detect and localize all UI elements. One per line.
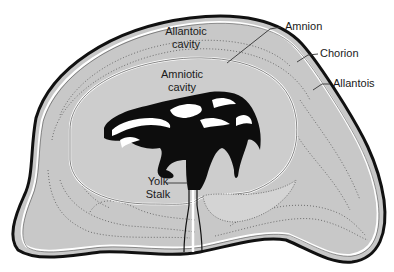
yolk-stalk-label-line2: Stalk: [141, 188, 175, 201]
allantois-label: Allantois: [333, 77, 375, 90]
chorion-label: Chorion: [320, 47, 359, 60]
allantoic-cavity-label: Allantoic cavity: [160, 25, 212, 51]
allantoic-cavity-label-line1: Allantoic: [160, 25, 212, 38]
allantoic-cavity-label-line2: cavity: [160, 38, 212, 51]
amnion-label: Amnion: [285, 20, 322, 33]
amniotic-cavity-label-line2: cavity: [154, 81, 210, 94]
yolk-stalk-label: Yolk Stalk: [141, 175, 175, 201]
yolk-stalk-label-line1: Yolk: [141, 175, 175, 188]
amniotic-cavity-label: Amniotic cavity: [154, 68, 210, 94]
amniotic-cavity-label-line1: Amniotic: [154, 68, 210, 81]
